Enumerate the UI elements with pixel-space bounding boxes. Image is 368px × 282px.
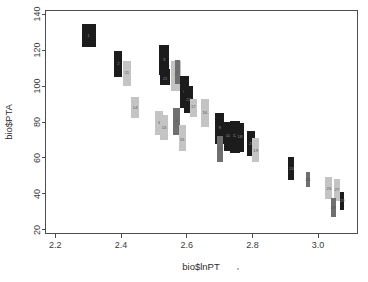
data-point: 24: [288, 157, 294, 179]
data-point: 11: [123, 61, 131, 86]
y-tick-label: 80: [32, 117, 42, 127]
data-point-label: 19: [253, 148, 258, 153]
data-markers-group: 1211146133215741582217169231012182019242…: [82, 24, 346, 217]
data-point-label: 24: [289, 166, 294, 171]
data-point: 21: [160, 69, 170, 85]
data-point-label: 17: [191, 104, 196, 109]
data-point: 19: [252, 138, 259, 162]
data-point-label: 13: [162, 125, 167, 130]
y-axis-ticks: 20406080100120140: [32, 7, 46, 235]
x-tick-label: 2.2: [49, 240, 62, 250]
y-axis-title: bio$PTA: [3, 103, 14, 139]
y-tick-label: 100: [32, 79, 42, 94]
data-point: 29: [340, 192, 345, 210]
data-point: 18: [236, 123, 244, 152]
data-point-label: 28: [331, 205, 336, 210]
y-tick-label: 140: [32, 7, 42, 22]
data-point-label: 26: [327, 186, 332, 191]
data-point: 23: [217, 136, 223, 161]
data-point-label: 21: [163, 76, 168, 81]
data-point-label: 29: [340, 198, 345, 203]
data-point: 17: [190, 99, 197, 117]
x-tick-label: 2.4: [115, 240, 128, 250]
data-point-label: 27: [334, 187, 339, 192]
y-tick-label: 60: [32, 153, 42, 163]
chart-canvas: 20406080100120140 2.22.42.62.83.0 121114…: [0, 0, 368, 282]
x-axis-title: bio$lnPT: [182, 261, 220, 272]
data-point-label: 14: [133, 105, 138, 110]
data-point: 27: [334, 179, 340, 201]
data-point: 15: [179, 125, 186, 151]
data-point-label: 11: [125, 70, 130, 75]
data-point: 26: [325, 177, 332, 199]
data-point: 2: [114, 51, 122, 77]
data-point: 25: [306, 172, 311, 186]
x-tick-label: 2.6: [180, 240, 193, 250]
y-tick-label: 20: [32, 225, 42, 235]
data-point: 1: [82, 24, 96, 47]
data-point: 13: [160, 115, 168, 140]
x-tick-label: 2.8: [246, 240, 259, 250]
scatter-plot: 20406080100120140 2.22.42.62.83.0 121114…: [0, 0, 368, 282]
y-tick-label: 40: [32, 189, 42, 199]
data-point: 14: [131, 97, 139, 119]
y-tick-label: 120: [32, 43, 42, 58]
x-tick-label: 3.0: [312, 240, 325, 250]
x-axis-ticks: 2.22.42.62.83.0: [49, 234, 324, 250]
data-point: 28: [331, 198, 336, 217]
data-point-label: 18: [238, 134, 243, 139]
data-point-label: 23: [218, 146, 223, 151]
data-point-label: 16: [202, 110, 207, 115]
data-point-label: 15: [180, 137, 185, 142]
data-point: 16: [201, 99, 209, 128]
data-point-label: 25: [306, 177, 311, 182]
data-point: 7: [175, 60, 180, 84]
stray-dot: [237, 268, 239, 270]
